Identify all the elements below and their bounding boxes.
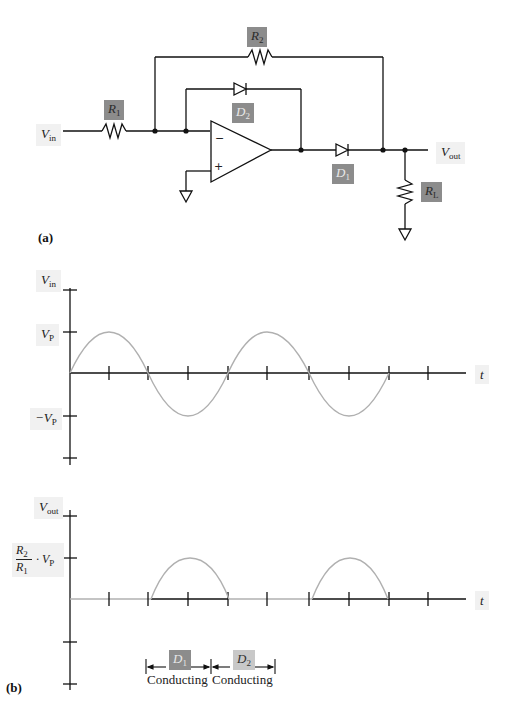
vout-subscript: out	[449, 151, 461, 161]
r1-label: R1	[104, 100, 124, 120]
vin-label: Vin	[36, 124, 61, 146]
d1-badge-subscript: 1	[182, 658, 187, 668]
vp-subscript: P	[49, 333, 54, 343]
neg-vp-tick-label: −VP	[30, 408, 62, 430]
t-axis-label-bottom: t	[475, 591, 489, 610]
vout-symbol: V	[441, 144, 449, 159]
d2-label: D2	[232, 103, 254, 123]
neg-vp-symbol: −V	[35, 410, 52, 425]
r2-symbol: R	[251, 28, 259, 43]
d1-symbol: D	[336, 165, 345, 180]
vout-label: Vout	[436, 142, 465, 164]
neg-vp-subscript: P	[52, 417, 57, 427]
vout-axis-label: Vout	[34, 497, 63, 519]
d1-conducting-badge: D1	[169, 650, 191, 670]
d1-badge-symbol: D	[173, 651, 182, 666]
ground-symbol-opamp	[180, 191, 192, 202]
vout-axis-symbol: V	[39, 499, 47, 514]
r2-subscript: 2	[259, 35, 264, 45]
gain-fraction-numerator: R2	[16, 543, 28, 559]
d2-symbol: D	[236, 104, 245, 119]
d2-badge-symbol: D	[237, 651, 246, 666]
d2-subscript: 2	[245, 111, 250, 121]
vp-tail-symbol: · V	[36, 552, 49, 566]
d1-subscript: 1	[345, 172, 350, 182]
vin-axis-symbol: V	[41, 272, 49, 287]
rl-subscript: L	[433, 190, 439, 200]
vin-sine-wave	[70, 332, 389, 416]
resistor-r2	[248, 50, 272, 64]
t-axis-label-top: t	[475, 365, 489, 384]
vin-symbol: V	[41, 126, 49, 141]
vin-axis-subscript: in	[49, 279, 56, 289]
d2-conducting-badge: D2	[233, 650, 255, 670]
r1-den-subscript: 1	[23, 566, 28, 576]
d2-conducting-text: Conducting	[212, 672, 273, 688]
r1-symbol: R	[108, 101, 116, 116]
d2-badge-subscript: 2	[246, 658, 251, 668]
panel-b-label: (b)	[6, 680, 22, 696]
diode-d2	[234, 83, 246, 95]
circuit-schematic: − +	[0, 0, 513, 709]
d1-conducting-text: Conducting	[147, 672, 208, 688]
vp-symbol: V	[41, 326, 49, 341]
vp-tail-subscript: P	[49, 558, 54, 568]
vin-subscript: in	[49, 133, 56, 143]
resistor-rl	[398, 180, 412, 204]
r1-subscript: 1	[116, 108, 121, 118]
diode-d1	[336, 144, 348, 156]
svg-text:−: −	[215, 132, 224, 145]
rl-label: RL	[421, 182, 442, 202]
vout-rectified-wave	[151, 558, 388, 599]
gain-fraction-tail: · VP	[36, 552, 54, 568]
panel-a-label: (a)	[38, 230, 53, 246]
d1-label: D1	[332, 164, 354, 184]
vp-tick-label: VP	[36, 324, 59, 346]
svg-text:+: +	[214, 160, 223, 173]
r2-num-subscript: 2	[23, 549, 28, 559]
gain-fraction-denominator: R1	[16, 560, 28, 576]
resistor-r1	[102, 124, 126, 138]
ground-symbol-load	[399, 229, 411, 240]
r2-label: R2	[247, 27, 267, 47]
vin-axis-label: Vin	[36, 270, 61, 292]
rl-symbol: R	[425, 183, 433, 198]
gain-tick-label: R2 R1 · VP	[12, 543, 64, 577]
vout-axis-subscript: out	[47, 506, 59, 516]
